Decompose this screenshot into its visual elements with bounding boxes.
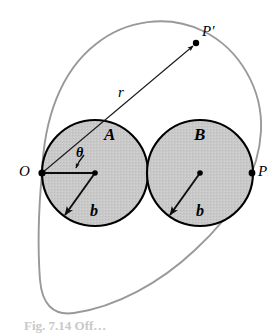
label-origin-o: O	[19, 164, 30, 179]
label-radius-r: r	[118, 85, 124, 100]
label-point-p: P	[258, 164, 267, 179]
geometric-diagram	[0, 0, 280, 333]
label-circle-a: A	[104, 126, 115, 143]
label-radius-b-right: b	[196, 203, 204, 219]
figure-caption: Fig. 7.14 Off…	[24, 318, 106, 333]
figure-container: A B O P P′ r θ b b Fig. 7.14 Off…	[0, 0, 280, 333]
point-p-prime-dot	[193, 40, 199, 46]
label-angle-theta: θ	[76, 146, 83, 160]
label-radius-b-left: b	[90, 203, 98, 219]
caption-strip: Fig. 7.14 Off…	[0, 318, 280, 333]
point-p-dot	[249, 170, 256, 177]
point-o-dot	[38, 169, 45, 176]
circle-a-center-dot	[92, 170, 98, 176]
circle-b-center-dot	[197, 170, 203, 176]
label-circle-b: B	[194, 126, 205, 143]
label-point-p-prime: P′	[202, 24, 214, 39]
